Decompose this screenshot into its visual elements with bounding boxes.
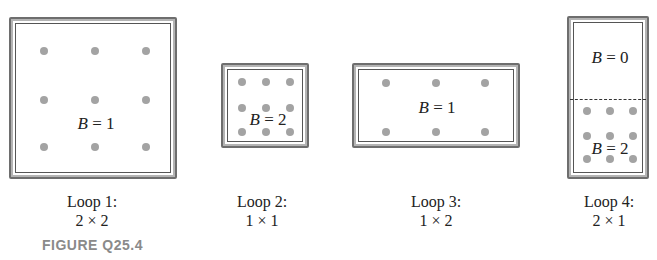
loop-4-caption: Loop 4: 2 × 1 — [584, 192, 634, 230]
field-dot — [142, 96, 150, 104]
field-symbol: B — [250, 110, 260, 129]
loop-dimensions: 2 × 1 — [584, 211, 634, 230]
field-boundary-dashed-line — [570, 99, 646, 100]
loop-3-interior: B = 1 — [358, 69, 514, 142]
field-dot — [91, 96, 99, 104]
loop-3-caption: Loop 3: 1 × 2 — [411, 192, 461, 230]
field-dot — [238, 128, 246, 136]
field-value: = 1 — [88, 114, 115, 133]
loop-name: Loop 4: — [584, 192, 634, 211]
field-dot — [142, 143, 150, 151]
loop-2-caption: Loop 2: 1 × 1 — [237, 192, 287, 230]
loop-dimensions: 1 × 1 — [237, 211, 287, 230]
figure-title: FIGURE Q25.4 — [42, 237, 143, 253]
field-value: = 0 — [602, 48, 629, 67]
field-dot — [238, 78, 246, 86]
field-label: B = 2 — [250, 110, 287, 130]
field-dot — [286, 78, 294, 86]
field-value: = 2 — [260, 110, 287, 129]
field-dot — [91, 143, 99, 151]
field-dot — [382, 79, 390, 87]
field-label-upper: B = 0 — [592, 48, 629, 68]
loop-dimensions: 1 × 2 — [411, 211, 461, 230]
loop-2: B = 2 — [221, 63, 309, 148]
field-dot — [629, 132, 637, 140]
field-dot — [91, 47, 99, 55]
field-label: B = 1 — [419, 98, 456, 118]
loop-1: B = 1 — [9, 17, 177, 179]
field-value: = 2 — [602, 139, 629, 158]
loop-dimensions: 2 × 2 — [67, 211, 117, 230]
field-dot — [262, 78, 270, 86]
loop-1-caption: Loop 1: 2 × 2 — [67, 192, 117, 230]
loop-name: Loop 1: — [67, 192, 117, 211]
field-dot — [481, 79, 489, 87]
field-dot — [382, 128, 390, 136]
field-symbol: B — [592, 48, 602, 67]
loop-4-interior: B = 0 B = 2 — [573, 22, 643, 173]
loop-3: B = 1 — [352, 63, 520, 148]
field-dot — [583, 132, 591, 140]
field-dot — [286, 104, 294, 112]
loop-name: Loop 2: — [237, 192, 287, 211]
field-dot — [40, 143, 48, 151]
field-dot — [40, 47, 48, 55]
field-dot — [583, 107, 591, 115]
loop-2-interior: B = 2 — [227, 69, 303, 142]
field-symbol: B — [78, 114, 88, 133]
field-symbol: B — [592, 139, 602, 158]
loop-1-interior: B = 1 — [15, 23, 171, 173]
field-dot — [286, 128, 294, 136]
field-dot — [432, 128, 440, 136]
field-dot — [629, 155, 637, 163]
field-label: B = 1 — [78, 114, 115, 134]
field-dot — [142, 47, 150, 55]
loop-name: Loop 3: — [411, 192, 461, 211]
field-value: = 1 — [429, 98, 456, 117]
field-dot — [583, 155, 591, 163]
loop-4: B = 0 B = 2 — [567, 16, 649, 179]
field-symbol: B — [419, 98, 429, 117]
field-dot — [238, 104, 246, 112]
field-dot — [629, 107, 637, 115]
field-dot — [481, 128, 489, 136]
field-label-lower: B = 2 — [592, 139, 629, 159]
field-dot — [40, 96, 48, 104]
field-dot — [432, 79, 440, 87]
field-dot — [606, 107, 614, 115]
